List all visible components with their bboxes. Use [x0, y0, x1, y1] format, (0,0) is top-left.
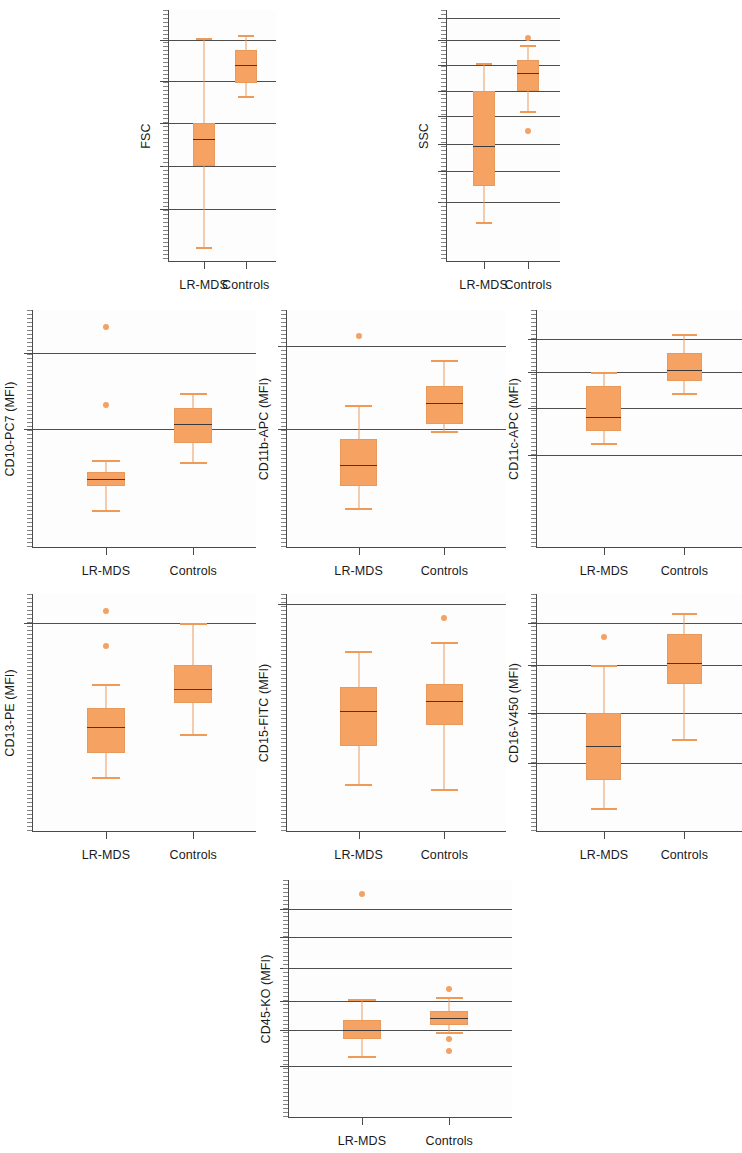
median-line	[586, 746, 621, 747]
boxplot-figure: LR-MDSControlsFSC LR-MDSControlsSSC LR-M…	[0, 0, 742, 1153]
whisker-cap-lower	[238, 96, 254, 98]
y-axis	[536, 310, 537, 548]
median-line	[426, 701, 463, 702]
x-axis-label: LR-MDS	[459, 278, 508, 292]
x-axis-label: Controls	[661, 848, 708, 862]
median-line	[667, 370, 702, 371]
x-axis-label: LR-MDS	[82, 564, 131, 578]
panel-fsc: LR-MDSControlsFSC	[168, 10, 276, 262]
x-axis	[32, 547, 256, 548]
whisker-cap-lower	[476, 222, 492, 224]
box-iqr	[174, 665, 212, 703]
x-axis-label: LR-MDS	[179, 278, 228, 292]
x-axis-label: Controls	[170, 564, 217, 578]
panel-cd15-fitc: LR-MDSControlsCD15-FITC (MFI)	[286, 594, 506, 832]
y-axis	[536, 594, 537, 832]
median-line	[235, 65, 257, 66]
y-axis-minor-ticks	[281, 310, 286, 548]
x-axis-label: Controls	[504, 278, 551, 292]
box-iqr	[87, 708, 125, 753]
outlier-point	[103, 608, 109, 614]
whisker-cap-lower	[672, 739, 697, 741]
gridline	[32, 353, 256, 354]
median-line	[87, 727, 125, 728]
outlier-point	[525, 35, 531, 41]
boxplot-controls	[235, 10, 257, 262]
x-axis	[536, 831, 742, 832]
boxplot-controls	[517, 10, 539, 262]
y-axis-label: CD16-V450 (MFI)	[507, 663, 521, 763]
box-iqr	[667, 634, 702, 684]
y-axis	[168, 10, 169, 262]
panel-cd10-pc7: LR-MDSControlsCD10-PC7 (MFI)	[32, 310, 256, 548]
gridline	[446, 65, 560, 66]
x-axis-tick	[449, 1118, 450, 1125]
x-axis-label: LR-MDS	[334, 848, 383, 862]
x-axis-label: Controls	[426, 1134, 473, 1148]
panel-cd11c-apc: LR-MDSControlsCD11c-APC (MFI)	[536, 310, 742, 548]
y-axis	[286, 310, 287, 548]
y-axis-minor-ticks	[531, 594, 536, 832]
boxplot-lr-mds	[586, 310, 621, 548]
panel-cd16-v450: LR-MDSControlsCD16-V450 (MFI)	[536, 594, 742, 832]
gridline	[446, 116, 560, 117]
median-line	[340, 465, 377, 466]
y-axis	[288, 880, 289, 1118]
x-axis-label: LR-MDS	[580, 848, 629, 862]
plot-area: LR-MDSControls	[536, 594, 742, 832]
box-iqr	[473, 91, 495, 187]
x-axis	[446, 261, 560, 262]
boxplot-lr-mds	[473, 10, 495, 262]
whisker-cap-upper	[180, 623, 207, 625]
outlier-point	[441, 615, 447, 621]
whisker-cap-upper	[345, 651, 372, 653]
x-axis-label: LR-MDS	[82, 848, 131, 862]
gridline	[446, 18, 560, 19]
boxplot-lr-mds	[193, 10, 215, 262]
whisker-cap-lower	[431, 431, 458, 433]
boxplot-lr-mds	[87, 594, 125, 832]
x-axis-tick	[359, 548, 360, 555]
median-line	[473, 146, 495, 147]
y-axis-label: CD15-FITC (MFI)	[257, 664, 271, 763]
whisker-cap-lower	[196, 247, 212, 249]
gridline	[446, 202, 560, 203]
y-axis-label: CD13-PE (MFI)	[3, 669, 17, 756]
whisker-cap-lower	[345, 784, 372, 786]
x-axis-tick	[106, 832, 107, 839]
y-axis-minor-ticks	[441, 10, 446, 262]
whisker-cap-lower	[672, 393, 697, 395]
whisker-cap-lower	[591, 443, 616, 445]
whisker-cap-lower	[92, 777, 119, 779]
boxplot-controls	[174, 594, 212, 832]
panel-ssc: LR-MDSControlsSSC	[446, 10, 560, 262]
x-axis-tick	[684, 832, 685, 839]
gridline	[32, 429, 256, 430]
plot-area: LR-MDSControls	[286, 594, 506, 832]
gridline	[168, 81, 276, 82]
gridline	[288, 1030, 512, 1031]
x-axis-tick	[444, 548, 445, 555]
box-iqr	[586, 386, 621, 431]
gridline	[288, 1001, 512, 1002]
x-axis-tick	[359, 832, 360, 839]
y-axis-minor-ticks	[27, 310, 32, 548]
gridline	[536, 623, 742, 624]
y-axis-label: CD10-PC7 (MFI)	[3, 381, 17, 476]
gridline	[168, 209, 276, 210]
whisker-cap-lower	[431, 789, 458, 791]
outlier-point	[601, 634, 607, 640]
x-axis-label: LR-MDS	[580, 564, 629, 578]
plot-area: LR-MDSControls	[32, 310, 256, 548]
median-line	[430, 1018, 468, 1019]
y-axis-minor-ticks	[27, 594, 32, 832]
whisker-cap-upper	[92, 460, 119, 462]
x-axis-tick	[604, 548, 605, 555]
gridline	[536, 665, 742, 666]
x-axis	[536, 547, 742, 548]
x-axis	[168, 261, 276, 262]
plot-area: LR-MDSControls	[168, 10, 276, 262]
boxplot-controls	[426, 594, 463, 832]
median-line	[193, 139, 215, 140]
median-line	[87, 479, 125, 480]
